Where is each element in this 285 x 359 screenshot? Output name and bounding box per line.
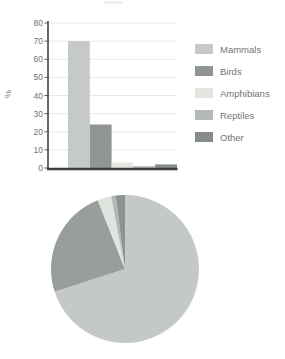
- legend: MammalsBirdsAmphibiansReptilesOther: [195, 44, 270, 154]
- y-axis-label: %: [3, 87, 13, 101]
- legend-swatch: [195, 66, 213, 76]
- legend-swatch: [195, 110, 213, 120]
- legend-label: Other: [220, 132, 244, 143]
- bar-reptiles: [133, 166, 155, 168]
- bar-amphibians: [112, 163, 134, 168]
- legend-item-mammals: Mammals: [195, 44, 270, 54]
- y-tick-label: 10: [34, 145, 44, 155]
- bar-birds: [90, 125, 112, 169]
- y-tick-label: 40: [34, 91, 44, 101]
- bar-other: [155, 164, 177, 168]
- legend-item-other: Other: [195, 132, 270, 142]
- bar-mammals: [68, 41, 90, 168]
- legend-item-birds: Birds: [195, 66, 270, 76]
- y-tick-label: 70: [34, 36, 44, 46]
- y-tick-label: 60: [34, 54, 44, 64]
- y-tick-label: 30: [34, 109, 44, 119]
- y-tick-label: 20: [34, 127, 44, 137]
- legend-swatch: [195, 44, 213, 54]
- legend-label: Amphibians: [220, 88, 270, 99]
- y-tick-label: 80: [34, 18, 44, 28]
- legend-swatch: [195, 88, 213, 98]
- pie-chart: [0, 180, 285, 359]
- legend-label: Mammals: [220, 44, 261, 55]
- legend-swatch: [195, 132, 213, 142]
- y-tick-label: 0: [38, 163, 43, 173]
- legend-label: Reptiles: [220, 110, 254, 121]
- y-tick-label: 50: [34, 72, 44, 82]
- chart-page: 01020304050607080 % MammalsBirdsAmphibia…: [0, 0, 285, 359]
- legend-item-reptiles: Reptiles: [195, 110, 270, 120]
- legend-item-amphibians: Amphibians: [195, 88, 270, 98]
- legend-label: Birds: [220, 66, 242, 77]
